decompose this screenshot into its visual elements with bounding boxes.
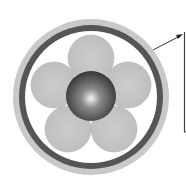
arrowhead-icon [176, 34, 183, 39]
central-core [66, 71, 116, 121]
callout-arrow-line [153, 36, 180, 50]
cable-cross-section-diagram [0, 0, 186, 188]
